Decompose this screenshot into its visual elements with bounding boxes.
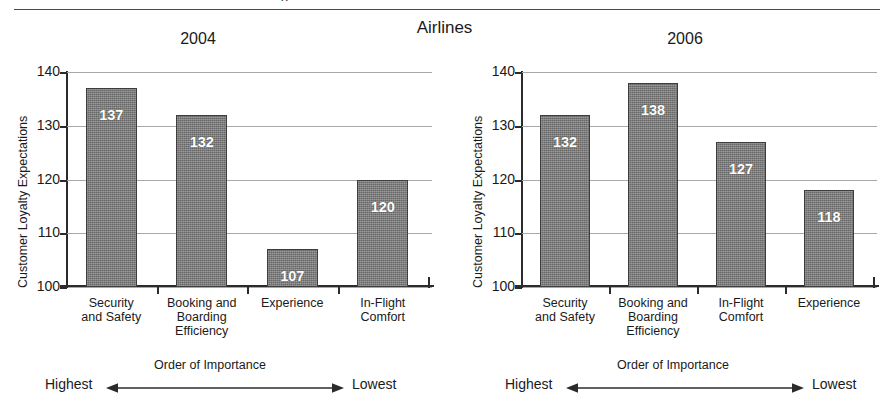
plot-area-2004: 137132107120: [66, 72, 428, 287]
category-label-line: Efficiency: [626, 324, 679, 338]
order-of-importance-label-2004: Order of Importance: [0, 358, 444, 372]
category-label-line: Boarding: [177, 310, 227, 324]
double-arrow-icon-2006: [566, 381, 804, 395]
category-label: In-FlightComfort: [338, 296, 429, 324]
category-label: In-FlightComfort: [697, 296, 785, 324]
y-axis-label-2004: Customer Loyalty Expectations: [16, 116, 30, 288]
y-axis-tick: [515, 233, 522, 235]
category-label-line: Security: [89, 296, 134, 310]
bar-value-label: 137: [87, 107, 136, 123]
category-label-line: and Safety: [81, 310, 141, 324]
order-of-importance-label-2006: Order of Importance: [457, 358, 889, 372]
category-label: Experience: [785, 296, 873, 310]
x-axis-tick: [338, 286, 340, 294]
bar[interactable]: 107: [267, 249, 318, 287]
bar-value-label: 132: [177, 134, 226, 150]
chart-title-2004: 2004: [0, 30, 420, 48]
category-label-line: Security: [542, 296, 587, 310]
y-axis-tick: [515, 180, 522, 182]
bar[interactable]: 120: [357, 180, 408, 288]
axis-direction-lowest-2004: Lowest: [352, 376, 396, 392]
category-label: Experience: [247, 296, 338, 310]
y-axis-label-2006: Customer Loyalty Expectations: [471, 116, 485, 288]
y-axis-tick: [515, 126, 522, 128]
y-axis-tick-label: 110: [481, 224, 515, 240]
x-axis-end-cap: [66, 277, 68, 288]
x-axis-tick: [247, 286, 249, 294]
x-axis-tick: [157, 286, 159, 294]
category-label-line: Boarding: [628, 310, 678, 324]
bar[interactable]: 127: [716, 142, 765, 287]
category-label: Booking andBoardingEfficiency: [157, 296, 248, 338]
category-label-line: Booking and: [167, 296, 237, 310]
y-axis-tick-label: 130: [481, 117, 515, 133]
x-axis-end-cap: [521, 277, 523, 288]
order-of-importance-axis-2004: Order of Importance Highest Lowest: [0, 358, 444, 404]
axis-direction-lowest-2006: Lowest: [812, 376, 856, 392]
category-label: Booking andBoardingEfficiency: [609, 296, 697, 338]
bar[interactable]: 132: [540, 115, 589, 287]
y-axis-tick-label: 110: [26, 224, 60, 240]
chart-panel-2006: 2006 Customer Loyalty Expectations 13213…: [445, 0, 889, 420]
y-axis-tick-label: 100: [26, 278, 60, 294]
bar[interactable]: 132: [176, 115, 227, 287]
y-axis-tick: [60, 72, 67, 74]
category-label-line: Booking and: [618, 296, 688, 310]
y-axis-tick-label: 140: [26, 63, 60, 79]
category-label-line: Experience: [261, 296, 324, 310]
gridline: [66, 72, 432, 73]
plot-area-2006: 132138127118: [521, 72, 873, 287]
y-axis-tick-label: 130: [26, 117, 60, 133]
chart-page: g Airlines 2004 Customer Loyalty Expecta…: [0, 0, 889, 420]
y-axis-tick: [60, 233, 67, 235]
x-axis-end-cap: [428, 277, 430, 288]
category-label-line: Comfort: [361, 310, 405, 324]
bar-value-label: 127: [717, 161, 764, 177]
category-label-line: Experience: [798, 296, 861, 310]
axis-direction-highest-2006: Highest: [505, 376, 552, 392]
bar-value-label: 118: [805, 209, 852, 225]
order-of-importance-axis-2006: Order of Importance Highest Lowest: [445, 358, 889, 404]
axis-direction-highest-2004: Highest: [45, 376, 92, 392]
bar-value-label: 120: [358, 199, 407, 215]
y-axis-tick: [515, 72, 522, 74]
y-axis-tick-label: 100: [481, 278, 515, 294]
category-label: Securityand Safety: [66, 296, 157, 324]
y-axis-tick-label: 140: [481, 63, 515, 79]
y-axis-tick: [60, 126, 67, 128]
double-arrow-icon-2004: [106, 381, 344, 395]
x-axis-tick: [785, 286, 787, 294]
category-label-line: Comfort: [719, 310, 763, 324]
chart-title-2006: 2006: [463, 30, 889, 48]
bar[interactable]: 138: [628, 83, 677, 287]
x-axis-tick: [697, 286, 699, 294]
bar-value-label: 138: [629, 102, 676, 118]
category-label-line: In-Flight: [360, 296, 405, 310]
category-label-line: Efficiency: [175, 324, 228, 338]
category-label-line: and Safety: [535, 310, 595, 324]
category-label-line: In-Flight: [718, 296, 763, 310]
bar[interactable]: 118: [804, 190, 853, 287]
bar[interactable]: 137: [86, 88, 137, 287]
gridline: [66, 287, 432, 288]
category-label: Securityand Safety: [521, 296, 609, 324]
y-axis-tick-label: 120: [481, 171, 515, 187]
x-axis-tick: [609, 286, 611, 294]
bar-value-label: 107: [268, 268, 317, 284]
chart-panel-2004: 2004 Customer Loyalty Expectations 13713…: [0, 0, 444, 420]
y-axis-tick: [60, 180, 67, 182]
gridline: [521, 72, 877, 73]
gridline: [521, 287, 877, 288]
bar-value-label: 132: [541, 134, 588, 150]
y-axis-tick-label: 120: [26, 171, 60, 187]
x-axis-end-cap: [873, 277, 875, 288]
